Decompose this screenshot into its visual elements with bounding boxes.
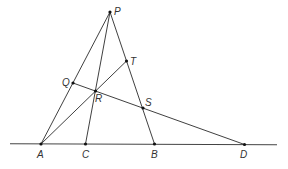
label-A: A <box>36 149 44 160</box>
point-T <box>125 59 128 62</box>
label-B: B <box>151 149 158 160</box>
point-C <box>84 142 87 145</box>
label-T: T <box>130 56 137 67</box>
point-B <box>153 142 156 145</box>
segment-PA <box>41 12 110 144</box>
point-D <box>243 143 246 146</box>
label-D: D <box>240 149 247 160</box>
segment-PC <box>86 12 111 144</box>
label-P: P <box>114 6 121 17</box>
label-R: R <box>95 93 102 104</box>
baseline-line <box>10 144 277 145</box>
label-S: S <box>145 97 152 108</box>
geometry-diagram: P T Q R S A C B D <box>0 0 288 169</box>
label-C: C <box>82 149 90 160</box>
point-A <box>39 142 42 145</box>
segment-PB <box>110 12 155 144</box>
point-Q <box>71 81 74 84</box>
segment-AT <box>41 61 127 144</box>
point-P <box>108 10 111 13</box>
label-Q: Q <box>62 77 70 88</box>
